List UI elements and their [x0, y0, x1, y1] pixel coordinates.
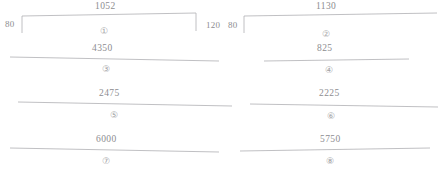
span-value-7: 6000 — [96, 135, 117, 145]
line-span-8 — [240, 148, 430, 151]
diagram-canvas: 80 120 80 1052 ① 1130 ② 4350 ③ 825 ④ 247… — [0, 0, 438, 175]
bracket-span-2 — [244, 13, 437, 33]
span-value-6: 2225 — [319, 89, 340, 99]
line-span-3 — [10, 57, 219, 61]
span-value-1: 1052 — [95, 2, 116, 12]
span-value-5: 2475 — [99, 89, 120, 99]
line-span-7 — [10, 148, 219, 152]
span-index-3: ③ — [102, 65, 110, 74]
line-span-4 — [264, 59, 409, 61]
span-index-2: ② — [322, 30, 330, 39]
line-span-5 — [18, 102, 232, 106]
span-index-6: ⑥ — [327, 112, 335, 121]
span-value-8: 5750 — [320, 135, 341, 145]
span-value-3: 4350 — [92, 44, 113, 54]
span-index-1: ① — [100, 27, 108, 36]
side-label-middle-120: 120 — [206, 21, 220, 30]
span-index-7: ⑦ — [102, 157, 110, 166]
span-index-8: ⑧ — [326, 157, 334, 166]
span-value-4: 825 — [317, 44, 332, 54]
side-label-left-80: 80 — [5, 20, 15, 29]
span-index-5: ⑤ — [110, 111, 118, 120]
line-span-6 — [250, 104, 438, 107]
bracket-span-1 — [22, 13, 196, 33]
span-value-2: 1130 — [316, 2, 336, 12]
side-label-middle-80: 80 — [228, 21, 238, 30]
span-index-4: ④ — [325, 66, 333, 75]
